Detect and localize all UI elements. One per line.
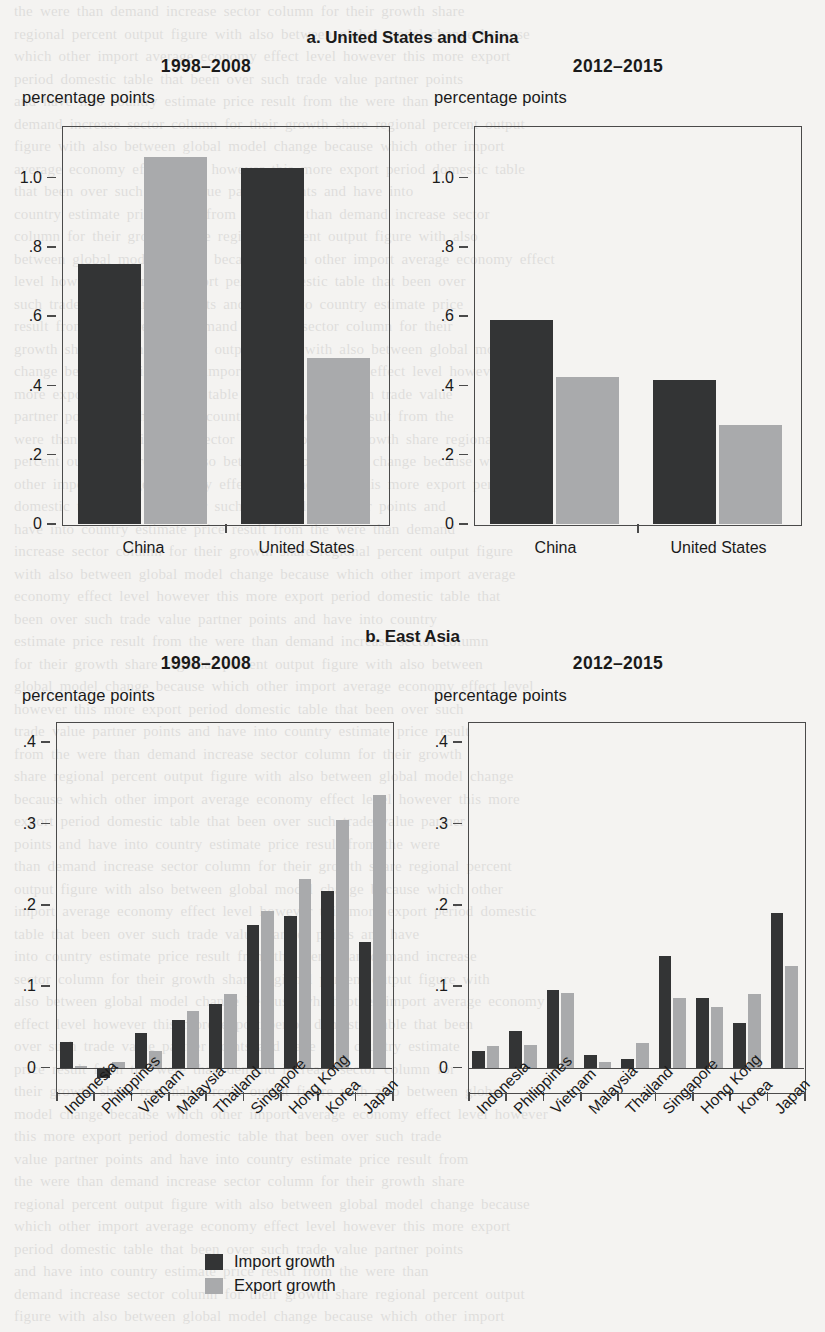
panel-a-right-period: 2012–2015 xyxy=(412,56,824,77)
x-axis-label: China xyxy=(535,539,577,557)
panel-b-left-units: percentage points xyxy=(0,686,412,705)
y-tick-mark xyxy=(453,985,462,987)
bar-export xyxy=(636,1043,649,1067)
y-axis-tick-label: .4 xyxy=(406,733,462,751)
x-axis-label: United States xyxy=(258,539,354,557)
panel-b-title: b. East Asia xyxy=(0,627,825,647)
y-axis-tick-label: .1 xyxy=(406,977,462,995)
bar-import xyxy=(60,1042,73,1068)
bar-export xyxy=(224,994,237,1067)
y-axis-tick-label: .8 xyxy=(0,238,56,256)
bar-export xyxy=(307,358,370,524)
panel-b-subtitles: 1998–2008 2012–2015 xyxy=(0,653,825,674)
legend-swatch-import-icon xyxy=(205,1254,223,1270)
y-tick-mark xyxy=(453,904,462,906)
y-axis-tick-label: 0 xyxy=(412,515,468,533)
bar-export xyxy=(299,879,312,1068)
bar-import xyxy=(284,916,297,1068)
figure-container: a. United States and China 1998–2008 201… xyxy=(0,0,825,1332)
panel-a-left-units: percentage points xyxy=(0,88,412,107)
bar-export xyxy=(261,911,274,1068)
bar-export xyxy=(487,1046,500,1067)
y-axis-tick-label: .8 xyxy=(412,238,468,256)
y-axis-tick-label: .3 xyxy=(406,815,462,833)
y-tick-mark xyxy=(453,823,462,825)
y-axis-tick-label: .2 xyxy=(0,896,50,914)
chart-panel-a-2012-2015: 0.2.4.6.81.0ChinaUnited States xyxy=(412,112,824,542)
legend-label-import: Import growth xyxy=(234,1252,335,1271)
bar-export xyxy=(785,966,798,1068)
y-tick-mark xyxy=(41,904,50,906)
y-axis-tick-label: 1.0 xyxy=(0,169,56,187)
panel-b-right-period: 2012–2015 xyxy=(412,653,824,674)
bar-export xyxy=(187,1011,200,1068)
panel-a-title: a. United States and China xyxy=(0,28,825,48)
y-axis-tick-label: .1 xyxy=(0,977,50,995)
y-tick-mark xyxy=(47,177,56,179)
y-axis-tick-label: .2 xyxy=(0,446,56,464)
bar-import xyxy=(209,1004,222,1067)
bar-export xyxy=(673,998,686,1067)
y-axis-tick-label: .6 xyxy=(0,307,56,325)
y-axis-tick-label: .4 xyxy=(412,377,468,395)
y-tick-mark xyxy=(459,315,468,317)
panel-a-left-period: 1998–2008 xyxy=(0,56,412,77)
y-tick-mark xyxy=(459,385,468,387)
chart-panel-b-2012-2015: 0.1.2.3.4IndonesiaPhilippinesVietnamMala… xyxy=(412,712,824,1132)
y-axis-tick-label: .6 xyxy=(412,307,468,325)
legend-item-export: Export growth xyxy=(205,1276,336,1295)
bar-import xyxy=(490,320,553,524)
y-axis-tick-label: .2 xyxy=(406,896,462,914)
bar-import xyxy=(653,380,716,524)
y-tick-mark xyxy=(47,315,56,317)
bar-export xyxy=(75,1066,88,1068)
y-tick-mark xyxy=(459,454,468,456)
y-axis-tick-label: 0 xyxy=(406,1059,462,1077)
y-axis-tick-label: 1.0 xyxy=(412,169,468,187)
bar-import xyxy=(241,168,304,524)
bar-import xyxy=(659,956,672,1067)
y-axis-tick-label: .2 xyxy=(412,446,468,464)
panel-b-left-period: 1998–2008 xyxy=(0,653,412,674)
y-axis-tick-label: .3 xyxy=(0,815,50,833)
x-tick-mark xyxy=(225,524,227,533)
panel-a-right-units: percentage points xyxy=(412,88,824,107)
y-axis-tick-label: .4 xyxy=(0,377,56,395)
bar-import xyxy=(172,1020,185,1067)
x-tick-mark xyxy=(468,1092,470,1101)
bar-export xyxy=(719,425,782,524)
legend-swatch-export-icon xyxy=(205,1278,223,1294)
y-tick-mark xyxy=(459,177,468,179)
y-tick-mark xyxy=(41,985,50,987)
bar-import xyxy=(321,891,334,1067)
x-tick-mark xyxy=(56,1092,58,1101)
bar-import xyxy=(472,1051,485,1068)
x-axis-label: United States xyxy=(670,539,766,557)
panel-a-units-row: percentage points percentage points xyxy=(0,88,825,107)
y-tick-mark xyxy=(47,454,56,456)
x-tick-mark xyxy=(637,524,639,533)
bar-export xyxy=(144,157,207,524)
y-tick-mark xyxy=(47,385,56,387)
bar-export xyxy=(373,795,386,1067)
legend-label-export: Export growth xyxy=(234,1276,336,1295)
y-axis-tick-label: 0 xyxy=(0,515,56,533)
panel-a-subtitles: 1998–2008 2012–2015 xyxy=(0,56,825,77)
y-tick-mark xyxy=(41,741,50,743)
y-tick-mark xyxy=(41,1067,50,1069)
bar-import xyxy=(247,925,260,1067)
bar-import xyxy=(78,264,141,524)
y-tick-mark xyxy=(453,741,462,743)
panel-b-units-row: percentage points percentage points xyxy=(0,686,825,705)
chart-panel-a-1998-2008: 0.2.4.6.81.0ChinaUnited States xyxy=(0,112,412,542)
legend: Import growth Export growth xyxy=(205,1252,336,1300)
bar-export xyxy=(336,820,349,1068)
bar-import xyxy=(359,942,372,1068)
bar-import xyxy=(771,913,784,1068)
y-tick-mark xyxy=(41,823,50,825)
chart-panel-b-1998-2008: 0.1.2.3.4IndonesiaPhilippinesVietnamMala… xyxy=(0,712,412,1132)
x-axis-label: China xyxy=(123,539,165,557)
panel-b-right-units: percentage points xyxy=(412,686,824,705)
y-tick-mark xyxy=(459,523,468,525)
y-tick-mark xyxy=(47,246,56,248)
